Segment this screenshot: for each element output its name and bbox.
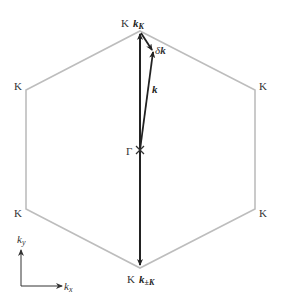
vertex-label-lower-left: K — [14, 207, 22, 219]
vector-label-k-K: kK — [133, 17, 145, 31]
gamma-label: Γ — [126, 145, 132, 157]
arrow-k — [140, 52, 153, 150]
vertex-label-upper-right: K — [259, 80, 267, 92]
brillouin-zone-diagram: K kK K K K K K k±K δk k Γ ky kx — [0, 0, 282, 307]
vertex-label-upper-left: K — [14, 80, 22, 92]
vector-label-delta-k: δk — [155, 44, 166, 56]
vector-label-k-minus-K: k±K — [139, 273, 155, 287]
vertex-label-top: K — [121, 17, 129, 29]
vector-label-k: k — [152, 83, 158, 95]
ky-axis-label: ky — [17, 233, 26, 247]
vertex-label-bottom: K — [127, 273, 135, 285]
vertex-label-lower-right: K — [259, 207, 267, 219]
kx-axis-label: kx — [64, 280, 73, 294]
